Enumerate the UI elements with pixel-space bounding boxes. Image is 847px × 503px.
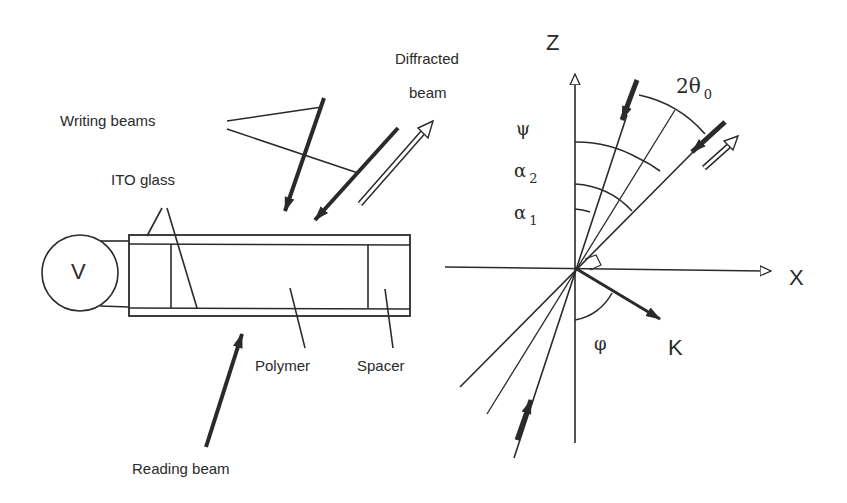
- label-voltage: V: [71, 259, 86, 285]
- label-diffracted-beam: beam: [409, 84, 447, 101]
- label-spacer: Spacer: [357, 357, 405, 374]
- label-diffracted: Diffracted: [395, 50, 459, 67]
- label-alpha2: α2: [514, 160, 537, 181]
- right-angle-marker: [585, 255, 601, 270]
- label-psi: ψ: [516, 118, 530, 139]
- polymer-leader: [290, 288, 305, 348]
- label-two-theta0: 2θ0: [676, 74, 712, 98]
- psi-arc: [575, 142, 638, 158]
- sample-cell: [129, 235, 410, 316]
- label-writing-beams: Writing beams: [60, 112, 156, 129]
- writing-beam-1-arrow: [285, 98, 324, 211]
- right-reading-beam-arrow: [517, 400, 531, 440]
- right-writing-beam-1-arrow: [622, 80, 637, 120]
- ito-glass-leaders: [147, 208, 197, 308]
- spacer-leader: [385, 289, 393, 348]
- phi-arc: [575, 293, 612, 320]
- reading-beam-arrow: [206, 334, 242, 447]
- label-x-axis: X: [789, 265, 804, 291]
- label-ito-glass: ITO glass: [111, 171, 175, 188]
- label-k-vector: K: [668, 335, 683, 361]
- x-axis: [445, 267, 770, 271]
- bisector-line: [487, 110, 675, 414]
- diagram-svg: [0, 0, 847, 503]
- k-vector-arrow: [575, 268, 660, 319]
- right-diffracted-beam-arrow: [704, 136, 738, 168]
- diffracted-beam-arrow: [360, 121, 433, 204]
- writing-beams-leaders: [227, 107, 358, 173]
- label-polymer: Polymer: [255, 357, 310, 374]
- figure-canvas: Diffracted beam Writing beams ITO glass …: [0, 0, 847, 503]
- alpha1-arc: [575, 209, 590, 212]
- beam-line-2: [460, 145, 700, 387]
- label-reading-beam: Reading beam: [132, 460, 230, 477]
- label-phi: φ: [594, 333, 607, 354]
- label-z-axis: Z: [546, 30, 559, 56]
- label-alpha1: α1: [514, 202, 537, 223]
